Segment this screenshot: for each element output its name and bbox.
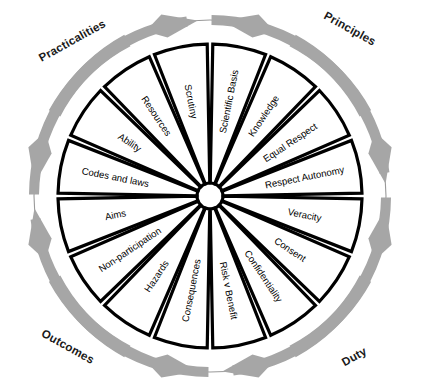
wedge-layer <box>58 44 362 348</box>
ethics-wheel-diagram: Scientific BasisKnowledgeEqual RespectRe… <box>0 0 421 390</box>
arrow-layer <box>28 14 391 377</box>
wheel-svg: Scientific BasisKnowledgeEqual RespectRe… <box>0 0 421 390</box>
quadrant-label: Duty <box>339 344 369 368</box>
quadrant-label: Outcomes <box>40 326 97 366</box>
quadrant-label: Principles <box>322 8 379 47</box>
